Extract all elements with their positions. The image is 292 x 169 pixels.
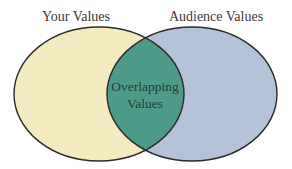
your-values-label: Your Values [42,9,110,24]
audience-values-label: Audience Values [169,9,263,24]
venn-diagram: Your Values Audience Values Overlapping … [0,0,292,169]
overlap-label-line-2: Values [127,96,163,111]
overlap-label-line-1: Overlapping [111,79,179,94]
